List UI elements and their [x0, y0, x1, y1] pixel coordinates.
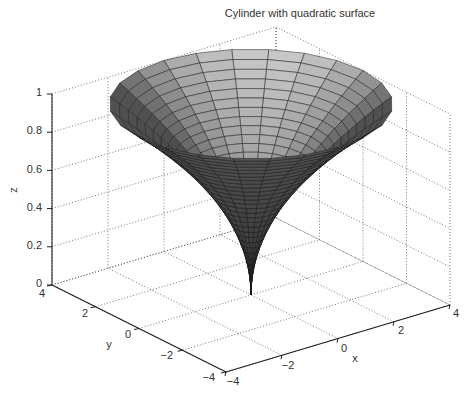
y-tick-label: −4	[202, 371, 215, 383]
y-tick-label: 2	[82, 307, 88, 319]
x-tick-label: −2	[282, 359, 295, 371]
y-tick-label: 4	[39, 287, 45, 299]
z-tick-labels: 0 0.2 0.4 0.6 0.8 1	[27, 86, 42, 289]
z-tick-label: 0.4	[27, 201, 42, 213]
z-tick-label: 1	[36, 86, 42, 98]
surface-mesh	[110, 50, 391, 295]
z-tick-label: 0.6	[27, 163, 42, 175]
y-tick-labels: −4 −2 0 2 4	[39, 287, 215, 383]
x-axis-label: x	[352, 352, 358, 364]
z-tick-label: 0.8	[27, 124, 42, 136]
x-tick-label: 0	[341, 342, 347, 354]
z-axis-label: z	[7, 187, 19, 193]
x-tick-label: 2	[398, 324, 404, 336]
chart-title: Cylinder with quadratic surface	[225, 7, 375, 19]
x-tick-label: 4	[453, 307, 459, 319]
y-tick-label: 0	[125, 328, 131, 340]
surface-plot: Cylinder with quadratic surface z y x 0 …	[0, 0, 469, 394]
x-tick-labels: −4 −2 0 2 4	[227, 307, 459, 387]
y-axis-label: y	[106, 338, 112, 350]
x-tick-label: −4	[227, 375, 240, 387]
z-tick-label: 0.2	[27, 239, 42, 251]
y-tick-label: −2	[160, 349, 173, 361]
